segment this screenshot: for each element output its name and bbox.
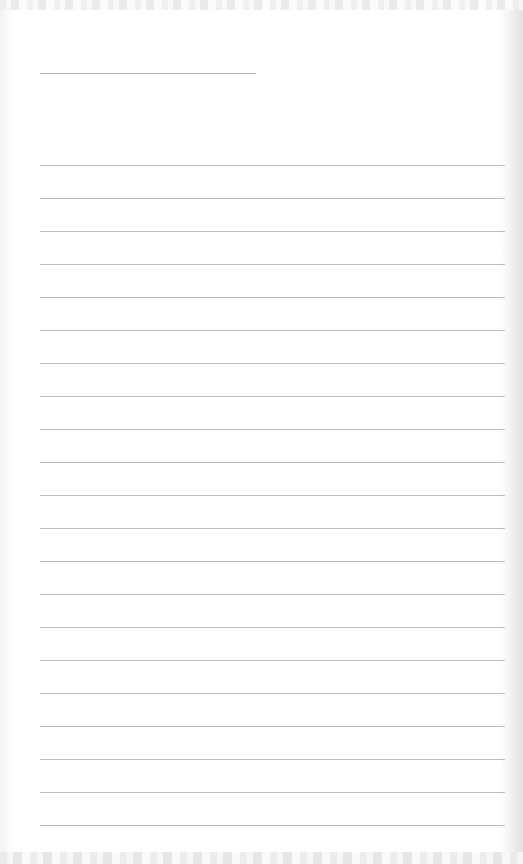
ruled-line [40, 759, 505, 760]
ruled-line [40, 363, 505, 364]
ruled-line [40, 594, 505, 595]
ruled-line [40, 396, 505, 397]
ruled-line [40, 825, 505, 826]
ruled-line [40, 726, 505, 727]
ruled-line [40, 660, 505, 661]
ruled-line [40, 561, 505, 562]
ruled-line [40, 264, 505, 265]
ruled-line [40, 627, 505, 628]
ruled-line [40, 792, 505, 793]
ruled-line [40, 429, 505, 430]
ruled-line [40, 528, 505, 529]
ruled-line [40, 330, 505, 331]
scan-edge-bottom [0, 852, 523, 864]
ruled-line [40, 297, 505, 298]
ruled-line [40, 165, 505, 166]
ruled-line [40, 462, 505, 463]
ruled-line [40, 495, 505, 496]
ruled-line [40, 693, 505, 694]
ruled-line [40, 231, 505, 232]
scan-edge-top [0, 0, 523, 10]
ruled-line [40, 198, 505, 199]
title-underline [40, 73, 256, 74]
lined-paper-page [0, 0, 523, 864]
